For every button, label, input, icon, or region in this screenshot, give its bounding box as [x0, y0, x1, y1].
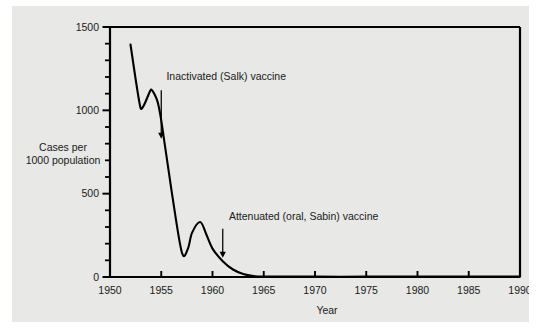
- x-axis-title: Year: [316, 304, 338, 316]
- x-tick-label: 1970: [303, 284, 327, 296]
- y-tick-label: 1000: [76, 104, 100, 116]
- x-tick-label: 1980: [406, 284, 430, 296]
- y-axis-title-line-2: 1000 population: [26, 154, 101, 166]
- annotation-label: Inactivated (Salk) vaccine: [166, 70, 286, 82]
- figure-container: 050010001500 195019551960196519701975198…: [0, 0, 541, 333]
- polio-incidence-line-chart: 050010001500 195019551960196519701975198…: [12, 6, 529, 322]
- x-tick-label: 1990: [508, 284, 529, 296]
- x-tick-label: 1950: [98, 284, 122, 296]
- y-axis-title-line-1: Cases per: [39, 141, 87, 153]
- chart-panel: 050010001500 195019551960196519701975198…: [12, 6, 529, 322]
- annotations-group: Inactivated (Salk) vaccineAttenuated (or…: [158, 70, 378, 258]
- x-tick-label: 1985: [457, 284, 481, 296]
- x-tick-label: 1955: [150, 284, 174, 296]
- y-axis-major-ticks: [103, 27, 111, 277]
- x-tick-label: 1965: [252, 284, 276, 296]
- x-tick-label: 1960: [201, 284, 225, 296]
- annotation-label: Attenuated (oral, Sabin) vaccine: [229, 210, 379, 222]
- annotation-arrow-head: [220, 252, 226, 258]
- y-tick-label: 0: [93, 271, 99, 283]
- axes-frame: [110, 27, 520, 277]
- x-axis-tick-labels: 195019551960196519701975198019851990: [98, 284, 529, 296]
- x-tick-label: 1975: [355, 284, 379, 296]
- y-tick-label: 1500: [76, 21, 100, 33]
- y-tick-label: 500: [81, 187, 99, 199]
